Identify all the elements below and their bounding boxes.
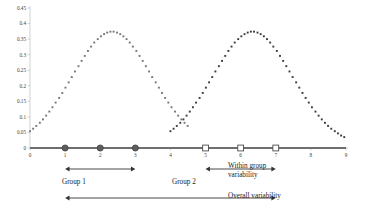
- data-point: [324, 122, 326, 124]
- data-point: [292, 76, 294, 78]
- data-point: [126, 38, 128, 40]
- data-point: [208, 81, 210, 83]
- data-point: [65, 87, 67, 89]
- data-point: [285, 65, 287, 67]
- data-point: [218, 65, 220, 67]
- group-2-observation: [273, 145, 279, 151]
- within-group-variability-label: Within group variability: [228, 162, 266, 179]
- data-point: [148, 71, 150, 73]
- y-tick-label: 0.25: [17, 67, 26, 73]
- data-point: [269, 42, 271, 44]
- data-point: [39, 122, 41, 124]
- data-point: [250, 31, 252, 33]
- data-point: [195, 102, 197, 104]
- data-point: [315, 111, 317, 113]
- data-point: [61, 92, 63, 94]
- data-point: [35, 125, 37, 127]
- x-tick-label: 8: [310, 152, 313, 158]
- data-point: [48, 111, 50, 113]
- series-2-markers: [169, 31, 345, 138]
- data-point: [308, 102, 310, 104]
- data-point: [180, 118, 182, 120]
- x-tick-label: 1: [64, 152, 67, 158]
- data-point: [276, 50, 278, 52]
- y-tick-label: 0.2: [20, 83, 27, 89]
- x-tick-label: 2: [99, 152, 102, 158]
- data-point: [97, 38, 99, 40]
- x-tick-label: 0: [29, 152, 32, 158]
- data-point: [263, 35, 265, 37]
- data-point: [119, 33, 121, 35]
- data-point: [302, 92, 304, 94]
- data-point: [205, 87, 207, 89]
- x-tick-label: 6: [239, 152, 242, 158]
- data-point: [266, 38, 268, 40]
- data-point: [151, 76, 153, 78]
- data-point: [29, 130, 31, 132]
- data-point: [171, 106, 173, 108]
- data-point: [84, 55, 86, 57]
- data-point: [129, 42, 131, 44]
- data-point: [221, 60, 223, 62]
- x-tick-label: 3: [134, 152, 137, 158]
- data-point: [257, 32, 259, 34]
- data-point: [340, 135, 342, 137]
- data-point: [164, 97, 166, 99]
- data-point: [234, 42, 236, 44]
- data-point: [189, 111, 191, 113]
- data-point: [74, 71, 76, 73]
- data-point: [161, 92, 163, 94]
- data-point: [100, 35, 102, 37]
- data-point: [122, 35, 124, 37]
- x-tick-label: 5: [204, 152, 207, 158]
- data-point: [158, 87, 160, 89]
- y-axis: 00.050.10.150.20.250.30.350.40.45: [17, 5, 30, 151]
- data-point: [109, 31, 111, 33]
- data-point: [214, 71, 216, 73]
- data-point: [42, 118, 44, 120]
- data-point: [179, 122, 181, 124]
- data-point: [132, 46, 134, 48]
- data-point: [45, 115, 47, 117]
- within-group-line-2: variability: [228, 171, 266, 180]
- data-point: [71, 76, 73, 78]
- data-point: [224, 55, 226, 57]
- data-point: [330, 128, 332, 130]
- data-point: [173, 128, 175, 130]
- y-tick-label: 0.1: [20, 114, 27, 120]
- data-point: [90, 46, 92, 48]
- data-point: [116, 32, 118, 34]
- y-tick-label: 0.05: [17, 129, 26, 135]
- within-group-line-1: Within group: [228, 162, 266, 171]
- data-point: [176, 125, 178, 127]
- data-point: [106, 32, 108, 34]
- data-point: [298, 87, 300, 89]
- data-point: [155, 81, 157, 83]
- data-point: [145, 65, 147, 67]
- data-point: [52, 106, 54, 108]
- data-point: [87, 50, 89, 52]
- data-point: [272, 46, 274, 48]
- data-point: [68, 81, 70, 83]
- group-2-observation: [238, 145, 244, 151]
- group-1-label: Group 1: [62, 178, 86, 186]
- y-tick-label: 0.4: [20, 20, 27, 26]
- data-point: [227, 50, 229, 52]
- data-point: [93, 42, 95, 44]
- group-2-label: Group 2: [172, 178, 196, 186]
- y-tick-label: 0.45: [17, 5, 26, 11]
- data-point: [139, 55, 141, 57]
- data-point: [343, 136, 345, 138]
- data-point: [337, 132, 339, 134]
- data-point: [55, 102, 57, 104]
- data-point: [177, 115, 179, 117]
- data-point: [334, 130, 336, 132]
- x-tick-label: 7: [274, 152, 277, 158]
- data-point: [295, 81, 297, 83]
- baseline-data-points: [30, 145, 346, 151]
- data-point: [244, 33, 246, 35]
- y-tick-label: 0: [23, 145, 26, 151]
- anova-variability-figure: 00.050.10.150.20.250.30.350.40.45 012345…: [0, 0, 390, 213]
- group-1-observation: [62, 145, 68, 151]
- data-point: [135, 50, 137, 52]
